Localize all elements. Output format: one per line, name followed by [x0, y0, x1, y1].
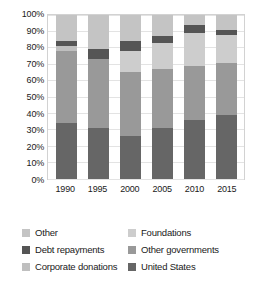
y-axis-tick-label: 20% [27, 142, 44, 151]
bar-segment[interactable] [184, 25, 205, 33]
bar-segment[interactable] [56, 51, 77, 123]
legend-swatch-icon [22, 229, 30, 237]
y-axis-tick-label: 40% [27, 109, 44, 118]
legend-label: Other governments [141, 244, 219, 255]
bar-column[interactable] [152, 15, 173, 179]
bar-segment[interactable] [88, 59, 109, 128]
bar-segment[interactable] [216, 115, 237, 179]
y-axis-tick-label: 100% [22, 10, 44, 19]
legend-swatch-icon [22, 263, 30, 271]
y-axis-tick-label: 10% [27, 159, 44, 168]
bar-column[interactable] [216, 15, 237, 179]
bar-segment[interactable] [152, 43, 173, 69]
x-axis-tick-label: 2015 [216, 182, 237, 198]
legend-swatch-icon [22, 246, 30, 254]
bar-segment[interactable] [184, 66, 205, 120]
stacked-bar-chart-figure: 0%10%20%30%40%50%60%70%80%90%100% 199019… [0, 0, 257, 296]
bar-segment[interactable] [120, 51, 141, 72]
x-axis-tick-label: 1995 [87, 182, 108, 198]
bar-segment[interactable] [152, 69, 173, 128]
x-axis-tick-label: 2010 [184, 182, 205, 198]
legend-label: Corporate donations [35, 261, 117, 272]
bar-segment[interactable] [56, 123, 77, 179]
bar-segment[interactable] [120, 41, 141, 51]
bar-segment[interactable] [88, 128, 109, 179]
legend-label: United States [141, 261, 195, 272]
legend-swatch-icon [128, 246, 136, 254]
bar-segment[interactable] [216, 35, 237, 63]
legend-item[interactable]: United States [128, 258, 240, 275]
legend-swatch-icon [128, 263, 136, 271]
bar-segment[interactable] [216, 63, 237, 115]
legend-row: Debt repaymentsOther governments [22, 241, 240, 258]
plot-canvas [47, 14, 245, 180]
legend-label: Debt repayments [35, 244, 104, 255]
bar-column[interactable] [184, 15, 205, 179]
plot-area: 0%10%20%30%40%50%60%70%80%90%100% 199019… [14, 14, 246, 200]
bar-segment[interactable] [120, 72, 141, 136]
x-axis-tick-label: 2000 [119, 182, 140, 198]
legend-row: OtherFoundations [22, 224, 240, 241]
legend-swatch-icon [128, 229, 136, 237]
legend-label: Other [35, 227, 58, 238]
y-axis-tick-label: 90% [27, 26, 44, 35]
bar-column[interactable] [56, 15, 77, 179]
bar-segment[interactable] [184, 120, 205, 179]
bar-segment[interactable] [88, 49, 109, 59]
y-axis-tick-label: 50% [27, 93, 44, 102]
legend-row: Corporate donationsUnited States [22, 258, 240, 275]
bar-segment[interactable] [120, 15, 141, 41]
x-axis-tick-label: 1990 [55, 182, 76, 198]
y-axis-tick-label: 0% [31, 176, 44, 185]
bar-column[interactable] [120, 15, 141, 179]
bar-group [48, 15, 244, 179]
legend-item[interactable]: Foundations [128, 224, 240, 241]
bar-segment[interactable] [152, 128, 173, 179]
chart-legend: OtherFoundationsDebt repaymentsOther gov… [22, 224, 240, 275]
bar-segment[interactable] [56, 15, 77, 41]
legend-item[interactable]: Other [22, 224, 128, 241]
y-axis-tick-label: 80% [27, 43, 44, 52]
x-axis: 199019952000200520102015 [47, 182, 245, 198]
bar-column[interactable] [88, 15, 109, 179]
y-axis-tick-label: 30% [27, 126, 44, 135]
bar-segment[interactable] [216, 15, 237, 30]
legend-item[interactable]: Other governments [128, 241, 240, 258]
y-axis: 0%10%20%30%40%50%60%70%80%90%100% [14, 14, 46, 180]
bar-segment[interactable] [120, 136, 141, 179]
legend-item[interactable]: Corporate donations [22, 258, 128, 275]
x-axis-tick-label: 2005 [152, 182, 173, 198]
bar-segment[interactable] [184, 33, 205, 66]
bar-segment[interactable] [88, 15, 109, 49]
y-axis-tick-label: 60% [27, 76, 44, 85]
bar-segment[interactable] [152, 15, 173, 36]
legend-label: Foundations [141, 227, 191, 238]
bar-segment[interactable] [184, 15, 205, 25]
legend-item[interactable]: Debt repayments [22, 241, 128, 258]
y-axis-tick-label: 70% [27, 59, 44, 68]
